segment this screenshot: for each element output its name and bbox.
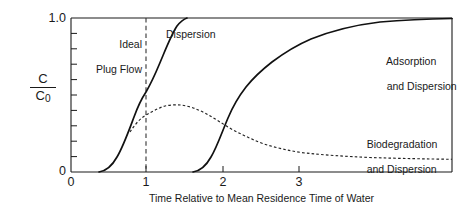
- y-axis-title: C C0: [28, 72, 58, 104]
- annotation-biodegradation-dispersion-line2: and Dispersion: [367, 163, 437, 175]
- y-axis-label-top: 1.0: [40, 11, 66, 26]
- y-axis-denominator: C0: [28, 89, 58, 104]
- y-axis-denominator-base: C: [35, 88, 44, 103]
- annotation-adsorption-dispersion-line2: and Dispersion: [387, 80, 457, 92]
- annotation-dispersion: Dispersion: [166, 28, 216, 40]
- x-axis-label-1: 1: [136, 175, 156, 190]
- annotation-adsorption-dispersion: Adsorption and Dispersion: [375, 43, 457, 104]
- x-axis-title: Time Relative to Mean Residence Time of …: [71, 192, 452, 204]
- x-axis-label-3: 3: [289, 175, 309, 190]
- annotation-biodegradation-dispersion: Biodegradation and Dispersion: [355, 126, 437, 187]
- annotation-ideal-plug-flow-line2: Plug Flow: [96, 63, 142, 75]
- chart-screenshot: 1.0 0 C C0 0 1 2 3 Time Relative to Mean…: [0, 0, 472, 207]
- y-axis-denominator-subscript: 0: [45, 92, 51, 103]
- annotation-ideal-plug-flow-line1: Ideal: [119, 38, 142, 50]
- x-axis-ticks: [146, 166, 299, 172]
- x-axis-label-0: 0: [61, 175, 81, 190]
- annotation-adsorption-dispersion-line1: Adsorption: [386, 55, 436, 67]
- y-axis-numerator: C: [28, 72, 58, 86]
- annotation-biodegradation-dispersion-line1: Biodegradation: [367, 138, 438, 150]
- annotation-ideal-plug-flow: Ideal Plug Flow: [76, 26, 142, 87]
- x-axis-label-2: 2: [213, 175, 233, 190]
